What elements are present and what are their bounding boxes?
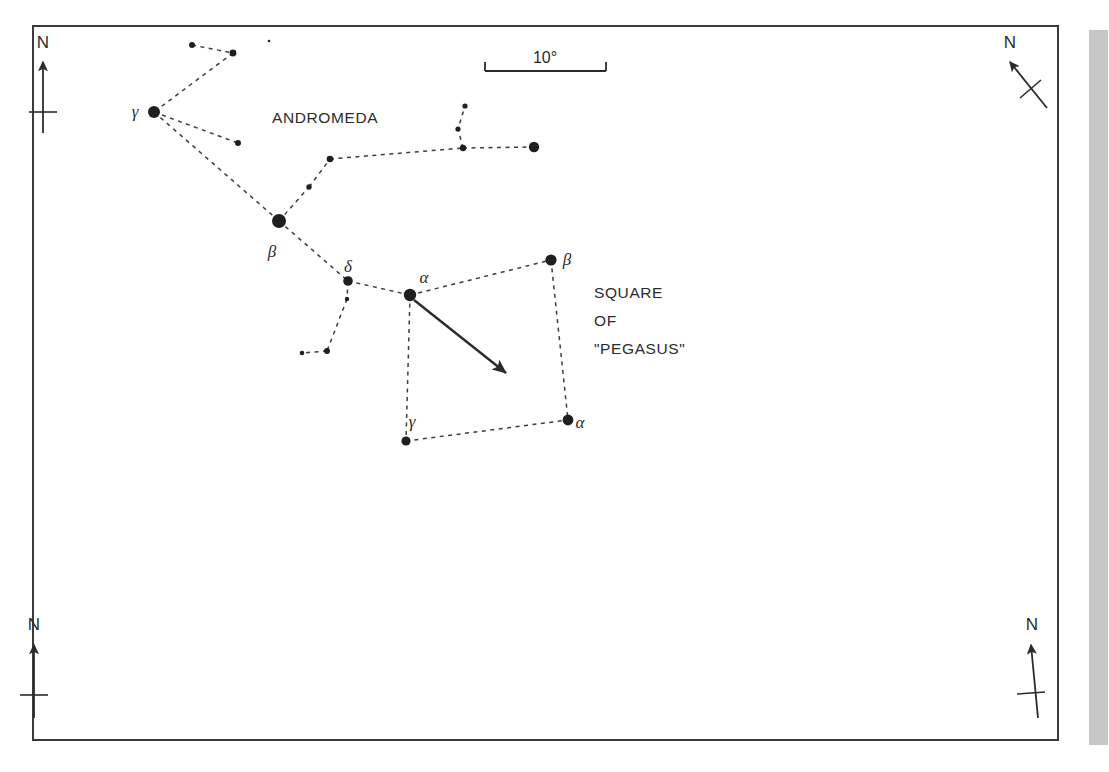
compass-top-right-arrow-icon xyxy=(1010,62,1047,108)
star-dot-and-small-2 xyxy=(300,351,305,356)
label-gamma-pegasi: γ xyxy=(409,412,417,431)
line-gammapeg-alphapeg xyxy=(406,420,568,441)
label-alpha-pegasi: α xyxy=(576,413,586,432)
star-dot-and-small-1 xyxy=(345,297,349,301)
andromeda-label: ANDROMEDA xyxy=(272,109,378,126)
pegasus-label-line3: "PEGASUS" xyxy=(594,340,685,357)
line-junction-right xyxy=(463,147,534,148)
line-bend-small2 xyxy=(302,351,327,353)
star-chart-figure: γβδαβαγ ANDROMEDASQUAREOF"PEGASUS" 10° N… xyxy=(0,0,1109,772)
star-dot-and-branch-m xyxy=(455,126,460,131)
star-dot-and-speck xyxy=(268,40,271,43)
star-dot-alpha-peg xyxy=(563,415,574,426)
line-delta-alpha xyxy=(348,281,410,295)
compass-bottom-right-arrow-icon xyxy=(1031,645,1038,718)
compass-top-right: N xyxy=(1004,33,1047,108)
m31-pointer-arrow xyxy=(414,300,506,373)
star-dot-and-mu xyxy=(327,156,334,163)
compass-bottom-left: N xyxy=(20,615,48,718)
star-dot-and-right xyxy=(529,142,539,152)
line-beta-delta xyxy=(279,221,348,281)
label-beta-andromedae: β xyxy=(267,242,277,261)
line-betapeg-alphapeg xyxy=(551,260,568,420)
compass-bottom-right: N xyxy=(1017,615,1045,718)
sky-map-svg: γβδαβαγ ANDROMEDASQUAREOF"PEGASUS" 10° N… xyxy=(0,0,1109,772)
chart-frame xyxy=(33,26,1058,740)
compass-top-right-label: N xyxy=(1004,33,1016,52)
line-small1-bend xyxy=(327,299,347,351)
page-edge-gray-bar xyxy=(1089,30,1108,745)
star-dots xyxy=(148,40,573,446)
constellation-name-labels: ANDROMEDASQUAREOF"PEGASUS" xyxy=(272,109,685,357)
scale-bar-label: 10° xyxy=(533,49,557,66)
line-upstop-chainb xyxy=(192,45,233,53)
line-alpha-betapeg xyxy=(410,260,551,295)
star-dot-beta-peg xyxy=(545,254,556,265)
line-chainb-gamma xyxy=(154,53,233,112)
label-beta-pegasi: β xyxy=(562,250,572,269)
star-dot-delta-and xyxy=(343,276,353,286)
star-dot-and-nu xyxy=(306,184,311,189)
label-gamma-andromedae: γ xyxy=(132,102,140,121)
star-dot-and-pi xyxy=(235,140,241,146)
star-dot-beta-and xyxy=(272,214,286,228)
star-dot-and-branch-t xyxy=(462,103,467,108)
north-compasses: NNNN xyxy=(20,33,1047,718)
label-alpha-andromedae: α xyxy=(420,268,430,287)
pointer-arrow-group xyxy=(414,300,506,373)
scale-bar: 10° xyxy=(485,49,606,71)
star-dot-alpha-and xyxy=(404,289,416,301)
compass-top-left-label: N xyxy=(37,33,49,52)
label-delta-andromedae: δ xyxy=(344,257,353,276)
star-dot-and-chain-b xyxy=(230,50,237,57)
compass-bottom-left-label: N xyxy=(28,615,40,634)
compass-bottom-right-cross-tick xyxy=(1017,692,1045,694)
star-dot-gamma-and xyxy=(148,106,160,118)
pegasus-label-line2: OF xyxy=(594,312,617,329)
compass-bottom-right-label: N xyxy=(1026,615,1038,634)
constellation-lines xyxy=(154,45,568,441)
pegasus-label-line1: SQUARE xyxy=(594,284,663,301)
line-gamma-pi xyxy=(154,112,238,143)
line-gamma-beta xyxy=(154,112,279,221)
star-dot-and-ups-top xyxy=(189,42,195,48)
star-dot-and-bend xyxy=(324,348,330,354)
chart-border xyxy=(33,26,1058,740)
star-dot-and-junction xyxy=(460,145,466,151)
star-dot-gamma-peg xyxy=(401,436,410,445)
line-mu-junction xyxy=(330,148,463,159)
line-nu-mu xyxy=(309,159,330,187)
